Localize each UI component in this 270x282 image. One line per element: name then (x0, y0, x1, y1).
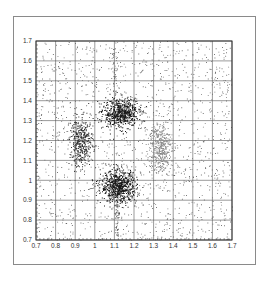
x-tick-label: 1.3 (149, 242, 158, 249)
cluster-right (141, 105, 180, 187)
y-tick-label: 1.5 (23, 77, 32, 84)
scatter-plot: 0.70.80.911.11.21.31.41.51.61.7 0.70.80.… (0, 0, 270, 282)
y-tick-label: 0.7 (23, 236, 32, 243)
x-tick-label: 1.7 (227, 242, 236, 249)
x-tick-label: 0.7 (31, 242, 40, 249)
y-tick-label: 0.9 (23, 196, 32, 203)
data-points (36, 41, 233, 241)
x-tick-label: 1.2 (129, 242, 138, 249)
x-tick-label: 1.4 (169, 242, 178, 249)
y-tick-label: 0.8 (23, 216, 32, 223)
cluster-bottom (92, 164, 151, 215)
x-tick-label: 1.5 (188, 242, 197, 249)
y-tick-label: 1.6 (23, 57, 32, 64)
x-tick-label: 0.9 (71, 242, 80, 249)
y-tick-label: 1.3 (23, 117, 32, 124)
y-tick-label: 1.1 (23, 157, 32, 164)
x-tick-label: 1 (93, 242, 97, 249)
y-tick-label: 1.4 (23, 97, 32, 104)
y-tick-label: 1 (28, 177, 32, 184)
x-tick-label: 1.6 (208, 242, 217, 249)
x-tick-label: 1.1 (110, 242, 119, 249)
grid-lines (36, 41, 232, 240)
background-points (36, 41, 233, 241)
y-tick-label: 1.2 (23, 137, 32, 144)
y-tick-label: 1.7 (23, 37, 32, 44)
x-tick-label: 0.8 (51, 242, 60, 249)
cluster-top (93, 92, 147, 140)
